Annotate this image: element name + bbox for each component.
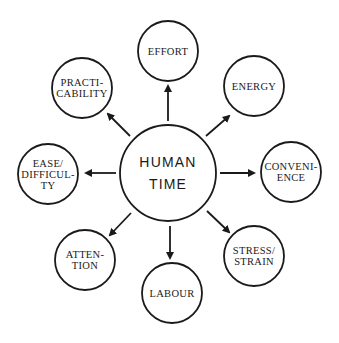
arrow-to-attention <box>110 213 131 235</box>
node-label: ATTEN- <box>66 249 105 260</box>
node-label: STRAIN <box>234 256 274 267</box>
node-label: TY <box>41 180 56 191</box>
arrow-to-energy <box>206 116 229 136</box>
node-label: PRACTI- <box>61 77 104 88</box>
node-label: ENCE <box>277 172 306 183</box>
node-label: CONVENI- <box>264 161 317 172</box>
node-label: EFFORT <box>148 46 189 57</box>
node-human-time: HUMANTIME <box>120 125 216 221</box>
arrow-to-practicability <box>108 114 130 136</box>
node-label: STRESS/ <box>233 245 275 256</box>
node-label: CABILITY <box>56 88 108 99</box>
node-label: LABOUR <box>150 288 195 299</box>
node-practicability: PRACTI-CABILITY <box>52 58 112 118</box>
human-time-diagram: EFFORTENERGYCONVENI-ENCESTRESS/STRAINLAB… <box>0 0 339 343</box>
node-label: DIFFICUL- <box>21 169 75 180</box>
node-ease-difficulty: EASE/DIFFICUL-TY <box>18 144 78 204</box>
node-labour: LABOUR <box>142 263 202 323</box>
node-energy: ENERGY <box>224 56 284 116</box>
center-node: HUMANTIME <box>120 125 216 221</box>
node-attention: ATTEN-TION <box>55 230 115 290</box>
node-stress-strain: STRESS/STRAIN <box>224 226 284 286</box>
arrow-to-stress-strain <box>207 211 229 232</box>
node-label: TIME <box>149 176 187 192</box>
node-label: TION <box>72 260 98 271</box>
node-label: ENERGY <box>232 81 276 92</box>
node-convenience: CONVENI-ENCE <box>261 142 321 202</box>
node-label: HUMAN <box>139 154 196 170</box>
node-circle <box>120 125 216 221</box>
node-label: EASE/ <box>33 158 64 169</box>
node-effort: EFFORT <box>138 21 198 81</box>
